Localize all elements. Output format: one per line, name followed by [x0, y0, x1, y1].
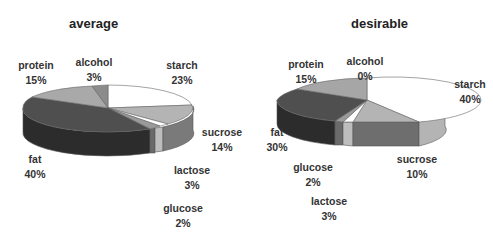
label-sucrose: sucrose14%	[198, 125, 246, 155]
label-starch: starch23%	[160, 58, 204, 88]
label-alcohol: alcohol3%	[72, 55, 116, 85]
label-protein: protein15%	[14, 58, 58, 88]
desirable-pie-chart: desirable protein15% alcohol0% starch40%…	[247, 0, 493, 237]
label-protein: protein15%	[284, 57, 328, 87]
average-pie-graphic	[0, 0, 246, 237]
label-glucose: glucose2%	[290, 160, 336, 190]
label-starch: starch40%	[447, 77, 493, 107]
label-glucose: glucose2%	[161, 201, 205, 231]
label-lactose: lactose3%	[307, 194, 351, 224]
label-sucrose: sucrose10%	[393, 152, 441, 182]
label-lactose: lactose3%	[170, 163, 214, 193]
label-fat: fat30%	[262, 125, 292, 155]
chart-title: average	[69, 16, 118, 31]
desirable-pie-graphic	[247, 0, 493, 237]
label-alcohol: alcohol0%	[343, 54, 387, 84]
chart-title: desirable	[351, 16, 408, 31]
slice-starch	[108, 85, 192, 108]
label-fat: fat40%	[20, 152, 50, 182]
average-pie-chart: average protein15% alcohol3% starch23% s…	[0, 0, 246, 237]
